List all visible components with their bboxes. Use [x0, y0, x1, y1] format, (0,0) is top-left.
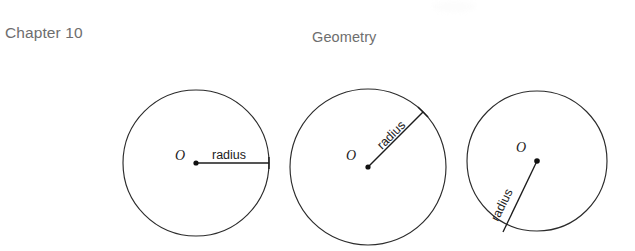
- center-point-3: [534, 158, 540, 164]
- circles-diagram: O radius O radius O radius: [0, 0, 635, 251]
- radius-label-1: radius: [212, 148, 246, 162]
- circle-group-1: O radius: [123, 90, 269, 236]
- page-canvas: Chapter 10 Geometry O radius O radius O: [0, 0, 635, 251]
- radius-label-2: radius: [374, 118, 408, 152]
- center-label-1: O: [175, 148, 185, 163]
- circle-group-2: O radius: [290, 89, 446, 245]
- center-point-1: [193, 160, 198, 165]
- center-label-3: O: [516, 140, 526, 155]
- center-point-2: [365, 164, 370, 169]
- circle-group-3: O radius: [467, 91, 607, 232]
- center-label-2: O: [346, 148, 356, 163]
- radius-label-3: radius: [488, 187, 516, 224]
